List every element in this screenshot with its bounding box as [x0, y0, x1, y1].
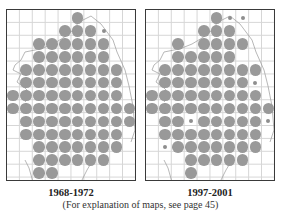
sparse-record-dot	[102, 29, 106, 33]
breeding-record-dot	[33, 90, 45, 102]
breeding-record-dot	[185, 167, 197, 179]
breeding-record-dot	[59, 116, 71, 128]
breeding-record-dot	[198, 51, 210, 63]
breeding-record-dot	[46, 116, 58, 128]
breeding-record-dot	[33, 167, 45, 179]
breeding-record-dot	[159, 116, 171, 128]
breeding-record-dot	[46, 129, 58, 141]
breeding-record-dot	[72, 51, 84, 63]
sparse-record-dot	[228, 16, 232, 20]
breeding-record-dot	[33, 103, 45, 115]
breeding-record-dot	[198, 64, 210, 76]
breeding-record-dot	[172, 116, 184, 128]
breeding-record-dot	[46, 154, 58, 166]
breeding-record-dot	[111, 141, 123, 153]
breeding-record-dot	[185, 64, 197, 76]
breeding-record-dot	[224, 38, 236, 50]
breeding-record-dot	[46, 64, 58, 76]
breeding-record-dot	[172, 141, 184, 153]
breeding-record-dot	[46, 77, 58, 89]
breeding-record-dot	[59, 77, 71, 89]
breeding-record-dot	[198, 90, 210, 102]
distribution-map-1968-1972	[6, 9, 136, 181]
breeding-record-dot	[172, 38, 184, 50]
breeding-record-dot	[59, 141, 71, 153]
breeding-record-dot	[159, 129, 171, 141]
breeding-record-dot	[33, 141, 45, 153]
breeding-record-dot	[172, 129, 184, 141]
breeding-record-dot	[20, 116, 32, 128]
breeding-record-dot	[85, 51, 97, 63]
breeding-record-dot	[98, 64, 110, 76]
breeding-record-dot	[185, 103, 197, 115]
breeding-record-dot	[33, 154, 45, 166]
breeding-record-dot	[46, 167, 58, 179]
breeding-record-dot	[172, 64, 184, 76]
breeding-record-dot	[33, 129, 45, 141]
breeding-record-dot	[185, 141, 197, 153]
breeding-record-dot	[98, 154, 110, 166]
breeding-record-dot	[159, 103, 171, 115]
sparse-record-dot	[241, 16, 245, 20]
breeding-record-dot	[59, 129, 71, 141]
breeding-record-dot	[85, 38, 97, 50]
breeding-record-dot	[59, 51, 71, 63]
breeding-record-dot	[211, 51, 223, 63]
breeding-record-dot	[20, 103, 32, 115]
breeding-record-dot	[198, 38, 210, 50]
breeding-record-dot	[198, 103, 210, 115]
breeding-record-dot	[46, 141, 58, 153]
breeding-record-dot	[237, 38, 249, 50]
breeding-record-dot	[72, 64, 84, 76]
breeding-record-dot	[185, 77, 197, 89]
breeding-record-dot	[237, 64, 249, 76]
breeding-record-dot	[59, 25, 71, 37]
breeding-record-dot	[198, 129, 210, 141]
breeding-record-dot	[20, 64, 32, 76]
breeding-record-dot	[85, 64, 97, 76]
breeding-record-dot	[185, 154, 197, 166]
breeding-record-dot	[159, 64, 171, 76]
breeding-record-dot	[224, 64, 236, 76]
breeding-record-dot	[111, 64, 123, 76]
breeding-record-dot	[172, 51, 184, 63]
period-label-right: 1997-2001	[145, 187, 275, 198]
breeding-record-dot	[250, 141, 262, 153]
breeding-record-dot	[46, 90, 58, 102]
breeding-record-dot	[59, 90, 71, 102]
breeding-record-dot	[198, 77, 210, 89]
breeding-record-dot	[211, 64, 223, 76]
breeding-record-dot	[198, 141, 210, 153]
breeding-record-dot	[185, 90, 197, 102]
breeding-record-dot	[185, 51, 197, 63]
breeding-record-dot	[237, 154, 249, 166]
breeding-record-dot	[98, 51, 110, 63]
breeding-record-dot	[46, 38, 58, 50]
breeding-record-dot	[33, 51, 45, 63]
breeding-record-dot	[59, 38, 71, 50]
breeding-record-dot	[172, 90, 184, 102]
breeding-record-dot	[59, 64, 71, 76]
distribution-map-1997-2001	[145, 9, 275, 181]
period-label-left: 1968-1972	[6, 187, 136, 198]
breeding-record-dot	[46, 51, 58, 63]
map-footnote: (For explanation of maps, see page 45)	[0, 199, 281, 210]
breeding-record-dot	[59, 154, 71, 166]
breeding-record-dot	[250, 64, 262, 76]
breeding-record-dot	[185, 129, 197, 141]
breeding-record-dot	[198, 25, 210, 37]
breeding-record-dot	[198, 154, 210, 166]
breeding-record-dot	[59, 103, 71, 115]
breeding-record-dot	[98, 38, 110, 50]
breeding-record-dot	[224, 51, 236, 63]
breeding-record-dot	[33, 64, 45, 76]
breeding-record-dot	[33, 116, 45, 128]
breeding-record-dot	[20, 129, 32, 141]
breeding-record-dot	[172, 103, 184, 115]
breeding-record-dot	[33, 38, 45, 50]
breeding-record-dot	[46, 103, 58, 115]
breeding-record-dot	[198, 116, 210, 128]
